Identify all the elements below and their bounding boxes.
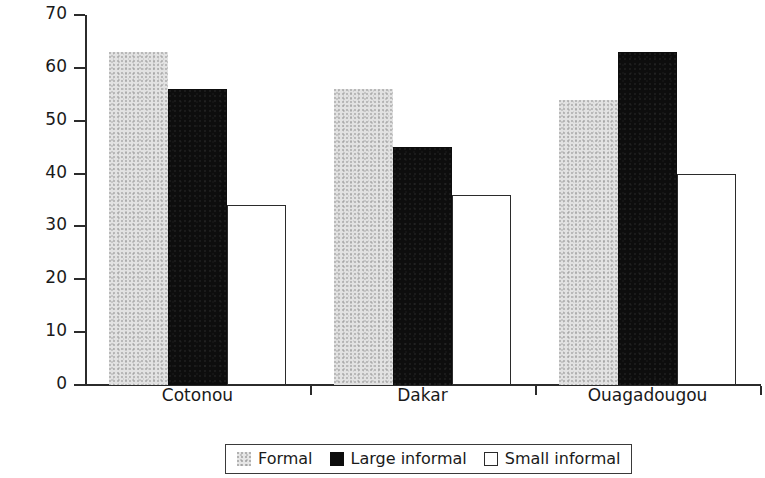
- y-tick-label: 0: [56, 373, 67, 393]
- x-tick-separator: [310, 386, 312, 395]
- y-tick-mark: [74, 14, 85, 16]
- bar-dakar-formal: [334, 89, 393, 385]
- legend-label: Large informal: [351, 449, 467, 469]
- y-tick-label: 30: [45, 214, 67, 234]
- bar-cotonou-formal: [109, 52, 168, 385]
- legend-item-small-informal: Small informal: [484, 449, 621, 469]
- y-tick-40: 40: [74, 173, 85, 175]
- bar-ouagadougou-large-informal: [618, 52, 677, 385]
- plot-area: 010203040506070: [85, 15, 760, 385]
- bar-cotonou-large-informal: [168, 89, 227, 385]
- legend-label: Small informal: [505, 449, 621, 469]
- bar-dakar-large-informal: [393, 147, 452, 385]
- x-tick-separator: [535, 386, 537, 395]
- y-tick-50: 50: [74, 120, 85, 122]
- y-tick-mark: [74, 120, 85, 122]
- bar-dakar-small-informal: [452, 195, 511, 385]
- bar-ouagadougou-formal: [559, 100, 618, 385]
- y-tick-70: 70: [74, 14, 85, 16]
- legend-item-large-informal: Large informal: [330, 449, 467, 469]
- y-tick-label: 50: [45, 109, 67, 129]
- y-tick-label: 60: [45, 56, 67, 76]
- y-tick-60: 60: [74, 67, 85, 69]
- bar-ouagadougou-small-informal: [677, 174, 736, 385]
- black-swatch: [330, 452, 344, 466]
- category-label-ouagadougou: Ouagadougou: [588, 384, 708, 406]
- y-tick-20: 20: [74, 278, 85, 280]
- y-axis-line: [85, 15, 87, 386]
- y-tick-label: 40: [45, 162, 67, 182]
- white-outline-swatch: [484, 452, 498, 466]
- y-tick-mark: [74, 278, 85, 280]
- legend-item-formal: Formal: [237, 449, 313, 469]
- y-tick-mark: [74, 331, 85, 333]
- y-tick-mark: [74, 67, 85, 69]
- y-tick-10: 10: [74, 331, 85, 333]
- y-tick-30: 30: [74, 225, 85, 227]
- y-tick-label: 20: [45, 267, 67, 287]
- bar-chart: % of firms 010203040506070 CotonouDakarO…: [0, 0, 765, 478]
- y-tick-label: 10: [45, 320, 67, 340]
- chart-legend: FormalLarge informalSmall informal: [225, 444, 632, 474]
- x-tick-end: [760, 386, 762, 395]
- y-tick-mark: [74, 225, 85, 227]
- category-label-dakar: Dakar: [397, 384, 447, 406]
- y-tick-mark: [74, 173, 85, 175]
- y-tick-0: 0: [74, 384, 85, 386]
- legend-label: Formal: [258, 449, 313, 469]
- bar-cotonou-small-informal: [227, 205, 286, 385]
- category-label-cotonou: Cotonou: [162, 384, 233, 406]
- light-gray-swatch: [237, 452, 251, 466]
- y-tick-label: 70: [45, 3, 67, 23]
- y-tick-mark: [74, 384, 85, 386]
